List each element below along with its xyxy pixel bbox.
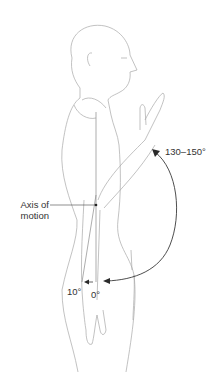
- figure-illustration: [0, 0, 221, 372]
- extension-line: [82, 195, 96, 282]
- axis-point: [95, 204, 98, 207]
- body-outline: [62, 25, 165, 372]
- axis-label-line1: Axis of: [15, 199, 49, 210]
- arrowhead-neutral: [103, 278, 110, 284]
- arrowhead-extension: [84, 280, 89, 285]
- rom-diagram: 130–150° Axis of motion 10° 0°: [0, 0, 221, 372]
- flexion-range-label: 130–150°: [165, 146, 206, 157]
- flexion-arc: [106, 152, 177, 281]
- axis-label: Axis of motion: [15, 199, 49, 221]
- extension-label: 10°: [67, 286, 81, 297]
- axis-label-line2: motion: [11, 210, 49, 221]
- neutral-label: 0°: [91, 289, 100, 300]
